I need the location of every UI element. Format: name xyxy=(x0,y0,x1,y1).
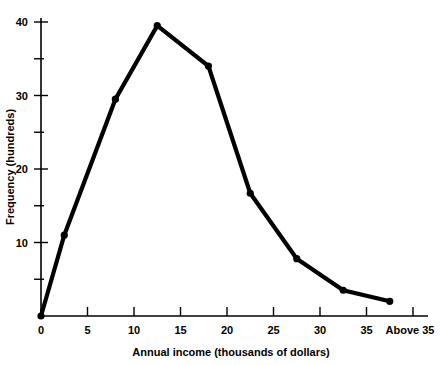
y-tick-label-40: 40 xyxy=(16,16,28,28)
x-tick-label-25: 25 xyxy=(267,324,279,336)
data-point xyxy=(386,298,393,305)
x-tick-label-10: 10 xyxy=(128,324,140,336)
data-point xyxy=(340,287,347,294)
x-axis-title: Annual income (thousands of dollars) xyxy=(132,346,330,358)
x-tick-label-20: 20 xyxy=(221,324,233,336)
x-tick-label-15: 15 xyxy=(174,324,186,336)
x-tick-label-0: 0 xyxy=(38,324,44,336)
y-tick-label-10: 10 xyxy=(16,237,28,249)
data-markers xyxy=(37,22,393,320)
y-tick-label-30: 30 xyxy=(16,90,28,102)
x-tick-label-35: 35 xyxy=(360,324,372,336)
data-line-frequency xyxy=(41,26,390,316)
data-point xyxy=(154,22,161,29)
data-point xyxy=(61,232,68,239)
data-point xyxy=(247,190,254,197)
x-tick-label-above-35: Above 35 xyxy=(386,324,435,336)
data-point xyxy=(112,96,119,103)
data-point xyxy=(293,255,300,262)
x-axis-ticks xyxy=(41,307,413,316)
line-chart: 40 30 20 10 0 5 10 15 20 25 30 35 Above … xyxy=(0,0,444,365)
chart-canvas: 40 30 20 10 0 5 10 15 20 25 30 35 Above … xyxy=(0,0,444,365)
x-tick-label-30: 30 xyxy=(314,324,326,336)
data-point xyxy=(37,312,44,319)
y-axis-title: Frequency (hundreds) xyxy=(4,109,16,225)
x-tick-label-5: 5 xyxy=(84,324,90,336)
y-tick-label-20: 20 xyxy=(16,163,28,175)
data-point xyxy=(205,63,212,70)
